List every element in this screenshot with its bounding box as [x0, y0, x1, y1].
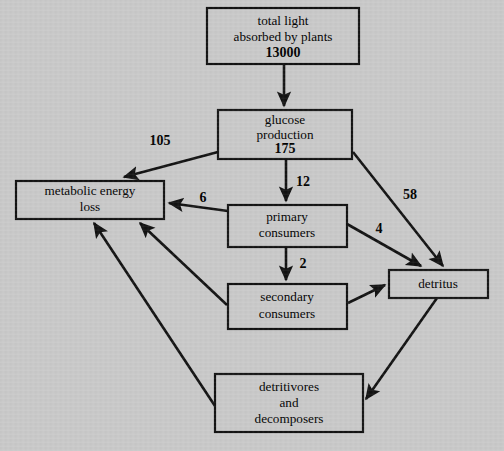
- metabolic-energy-loss-label-line2: loss: [80, 199, 101, 214]
- flow-secondary-to-detritus: [348, 285, 385, 303]
- total-light-label-line2: absorbed by plants: [234, 29, 333, 44]
- flow-diagram-canvas: total light absorbed by plants 13000 glu…: [0, 0, 504, 451]
- flow-primary-to-detritus: [347, 224, 421, 266]
- secondary-consumers-label-line2: consumers: [259, 306, 315, 321]
- primary-consumers-label-line1: primary: [266, 209, 308, 224]
- glucose-production-label-line2: production: [256, 127, 314, 142]
- total-light-value: 13000: [266, 45, 301, 60]
- flow-label-2: 2: [300, 256, 307, 271]
- node-primary-consumers: primary consumers: [228, 205, 347, 247]
- primary-consumers-label-line2: consumers: [259, 225, 315, 240]
- flow-primary-to-metabolic: [169, 203, 228, 211]
- flow-detritivores-to-metabolic: [94, 223, 215, 406]
- total-light-label-line1: total light: [258, 13, 309, 28]
- metabolic-energy-loss-label-line1: metabolic energy: [45, 183, 136, 198]
- node-metabolic-energy-loss: metabolic energy loss: [16, 181, 164, 219]
- detritus-label: detritus: [418, 276, 458, 291]
- energy-flow-diagram: total light absorbed by plants 13000 glu…: [0, 0, 504, 451]
- detritivores-label-line3: decomposers: [255, 411, 324, 426]
- secondary-consumers-label-line1: secondary: [260, 289, 314, 304]
- flow-label-6: 6: [200, 190, 207, 205]
- node-glucose-production: glucose production 175: [218, 110, 352, 159]
- node-detritus: detritus: [389, 270, 488, 298]
- flow-secondary-to-metabolic: [140, 223, 227, 305]
- flow-glucose-to-detritus: [353, 152, 443, 266]
- flow-label-58: 58: [403, 187, 417, 202]
- flow-label-12: 12: [296, 174, 310, 189]
- node-total-light: total light absorbed by plants 13000: [207, 8, 359, 64]
- flow-detritus-to-detritivores: [366, 298, 437, 399]
- glucose-production-value: 175: [275, 141, 296, 156]
- flow-glucose-to-metabolic: [124, 152, 218, 177]
- flow-label-4: 4: [376, 221, 383, 236]
- detritivores-label-line1: detritivores: [259, 379, 319, 394]
- node-secondary-consumers: secondary consumers: [228, 284, 347, 329]
- glucose-production-label-line1: glucose: [265, 112, 305, 127]
- node-detritivores-and-decomposers: detritivores and decomposers: [215, 374, 363, 432]
- flow-label-105: 105: [150, 133, 171, 148]
- detritivores-label-line2: and: [279, 395, 298, 410]
